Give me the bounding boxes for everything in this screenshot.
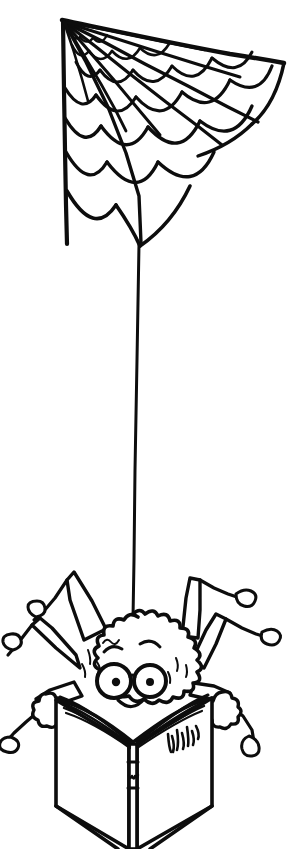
- book-spine: [129, 744, 137, 849]
- pupil-left: [112, 678, 120, 686]
- foot-left-middle: [3, 634, 21, 650]
- foot-right-middle: [261, 629, 280, 645]
- squiggle-stroke-5: [187, 727, 188, 746]
- spider-scene-svg: [0, 0, 300, 849]
- foot-left-lower: [0, 737, 19, 753]
- squiggle-stroke-3: [177, 730, 178, 750]
- illustration-canvas: Cartoon Spider Reading a Book black and …: [0, 0, 300, 849]
- foot-right-lower: [242, 736, 259, 756]
- foot-left-upper: [28, 601, 45, 617]
- fur-mark-5: [186, 665, 187, 677]
- foot-right-upper: [236, 590, 256, 606]
- pupil-right: [146, 678, 154, 686]
